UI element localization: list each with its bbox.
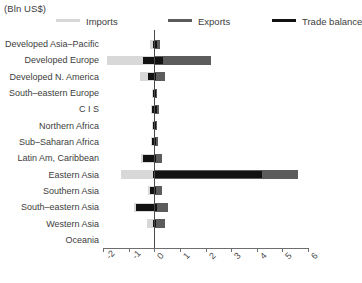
x-tick <box>282 248 283 252</box>
bar-exports <box>154 219 165 228</box>
x-tick-label: -1 <box>130 248 143 261</box>
category-label: Developed Asia–Pacific <box>0 39 99 49</box>
x-tick-label: 4 <box>258 250 269 261</box>
x-tick <box>206 248 207 252</box>
legend-swatch-exports <box>168 19 192 22</box>
bar-row <box>103 199 308 215</box>
x-tick <box>103 248 104 252</box>
bar-row <box>103 118 308 134</box>
legend-label-trade-balance: Trade balance <box>302 16 362 27</box>
x-tick-label: 0 <box>155 250 166 261</box>
category-label: Latin Am, Caribbean <box>0 153 99 163</box>
legend-swatch-imports <box>56 19 80 22</box>
legend-label-imports: Imports <box>86 16 118 27</box>
x-tick <box>180 248 181 252</box>
x-tick-label: -2 <box>104 248 117 261</box>
bar-row <box>103 183 308 199</box>
bar-row <box>103 232 308 248</box>
bar-trade-balance <box>153 171 262 178</box>
zero-reference-line <box>154 30 155 252</box>
bar-trade-balance <box>143 57 164 64</box>
category-axis-labels: Developed Asia–PacificDeveloped EuropeDe… <box>0 36 99 248</box>
legend-item-imports: Imports <box>56 12 118 24</box>
legend-item-trade-balance: Trade balance <box>272 12 362 24</box>
bar-row <box>103 36 308 52</box>
bar-row <box>103 69 308 85</box>
x-tick-label: 1 <box>181 250 192 261</box>
legend-swatch-trade-balance <box>272 19 296 22</box>
category-label: Oceania <box>0 235 99 245</box>
x-tick <box>257 248 258 252</box>
legend-label-exports: Exports <box>198 16 230 27</box>
category-label: Northern Africa <box>0 121 99 131</box>
x-tick-label: 6 <box>309 250 320 261</box>
x-tick-label: 2 <box>207 250 218 261</box>
x-tick <box>308 248 309 252</box>
category-label: Developed N. America <box>0 72 99 82</box>
chart-unit-title: (Bln US$) <box>4 3 46 14</box>
x-tick-label: 5 <box>283 250 294 261</box>
bar-row <box>103 215 308 231</box>
legend-item-exports: Exports <box>168 12 230 24</box>
category-label: Sub–Saharan Africa <box>0 137 99 147</box>
x-tick <box>231 248 232 252</box>
bar-row <box>103 134 308 150</box>
x-tick <box>129 248 130 252</box>
plot-area: -2-10123456 <box>103 36 308 248</box>
bar-row <box>103 150 308 166</box>
category-label: Southern Asia <box>0 186 99 196</box>
x-tick-label: 3 <box>232 250 243 261</box>
category-label: C I S <box>0 104 99 114</box>
category-label: South–eastern Asia <box>0 202 99 212</box>
category-label: Developed Europe <box>0 55 99 65</box>
bar-row <box>103 85 308 101</box>
bar-rows <box>103 36 308 248</box>
x-tick <box>154 248 155 252</box>
bar-row <box>103 166 308 182</box>
bar-trade-balance <box>150 187 156 194</box>
bar-row <box>103 52 308 68</box>
bar-row <box>103 101 308 117</box>
category-label: Western Asia <box>0 219 99 229</box>
category-label: South–eastern Europe <box>0 88 99 98</box>
bar-imports <box>121 170 154 179</box>
category-label: Eastern Asia <box>0 170 99 180</box>
